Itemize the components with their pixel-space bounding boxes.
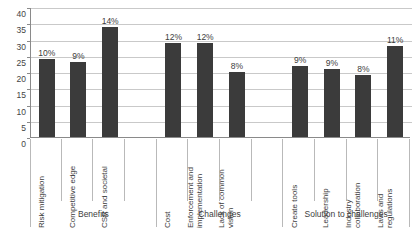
category-label-cell: Lack of commonvision xyxy=(220,139,252,201)
y-axis-tick-label: 30 xyxy=(0,36,30,46)
y-axis-tick-label: 25 xyxy=(0,52,30,62)
bar[interactable] xyxy=(324,69,340,137)
bar-value-label: 8% xyxy=(357,64,369,74)
group-label-cell: Benefits xyxy=(30,201,157,227)
group-label-cell: Challenges xyxy=(157,201,284,227)
category-label-cell: Risk mitigation xyxy=(30,139,62,201)
bar-chart: 4035302520151050 10%9%14%12%12%8%9%9%8%1… xyxy=(0,0,414,237)
category-spacer-cell xyxy=(125,139,157,201)
bar-value-label: 9% xyxy=(294,55,306,65)
bar-value-label: 10% xyxy=(38,48,55,58)
bar-slot: 14% xyxy=(94,8,126,137)
bar-value-label: 9% xyxy=(72,51,84,61)
bar[interactable] xyxy=(165,43,181,137)
bar[interactable] xyxy=(39,59,55,137)
category-label-cell: Competitive edge xyxy=(62,139,94,201)
group-label: Solution to challenges xyxy=(305,209,388,219)
bar-value-label: 11% xyxy=(387,35,403,45)
bar-slot: 9% xyxy=(63,8,95,137)
category-axis-labels: Risk mitigationCompetitive edgeCSR and s… xyxy=(30,139,410,201)
bar-slot: 12% xyxy=(189,8,221,137)
category-label-cell: Enforcement andimplementation xyxy=(188,139,220,201)
y-axis-tick-label: 40 xyxy=(0,3,30,13)
bar-value-label: 14% xyxy=(102,16,119,26)
group-label: Benefits xyxy=(78,209,109,219)
y-axis-tick-label: 35 xyxy=(0,19,30,29)
bar[interactable] xyxy=(70,62,86,137)
category-spacer-cell xyxy=(252,139,284,201)
bar-slot: 10% xyxy=(31,8,63,137)
bar-slot: 11% xyxy=(379,8,411,137)
group-label: Challenges xyxy=(198,209,241,219)
group-axis-labels: BenefitsChallengesSolution to challenges xyxy=(30,201,410,227)
bar-slot: 8% xyxy=(221,8,253,137)
category-label-cell: Laws andregulations xyxy=(378,139,410,201)
category-label-cell: Leadership xyxy=(315,139,347,201)
bar[interactable] xyxy=(292,66,308,138)
plot-area: 10%9%14%12%12%8%9%9%8%11% xyxy=(30,8,410,138)
bar-slot: 9% xyxy=(284,8,316,137)
bar-slot: 8% xyxy=(348,8,380,137)
bar[interactable] xyxy=(197,43,213,137)
y-axis: 4035302520151050 xyxy=(0,8,30,139)
bar-slot: 12% xyxy=(158,8,190,137)
bar[interactable] xyxy=(102,27,118,138)
y-axis-tick-label: 15 xyxy=(0,84,30,94)
bar-slot: 9% xyxy=(316,8,348,137)
bar[interactable] xyxy=(229,72,245,137)
y-axis-tick-label: 20 xyxy=(0,68,30,78)
category-label-cell: Industrycollaboration xyxy=(347,139,379,201)
y-axis-tick-label: 0 xyxy=(0,133,30,143)
bar-value-label: 12% xyxy=(197,32,214,42)
bar[interactable] xyxy=(387,46,403,137)
category-label-cell: Cost xyxy=(157,139,189,201)
bar-value-label: 9% xyxy=(326,58,338,68)
bar-value-label: 8% xyxy=(231,61,243,71)
category-label-cell: CSR and societal xyxy=(93,139,125,201)
category-label-cell: Create tools xyxy=(283,139,315,201)
y-axis-tick-label: 5 xyxy=(0,117,30,127)
group-label-cell: Solution to challenges xyxy=(283,201,410,227)
y-axis-tick-label: 10 xyxy=(0,101,30,111)
bar[interactable] xyxy=(355,75,371,137)
bar-value-label: 12% xyxy=(165,32,182,42)
